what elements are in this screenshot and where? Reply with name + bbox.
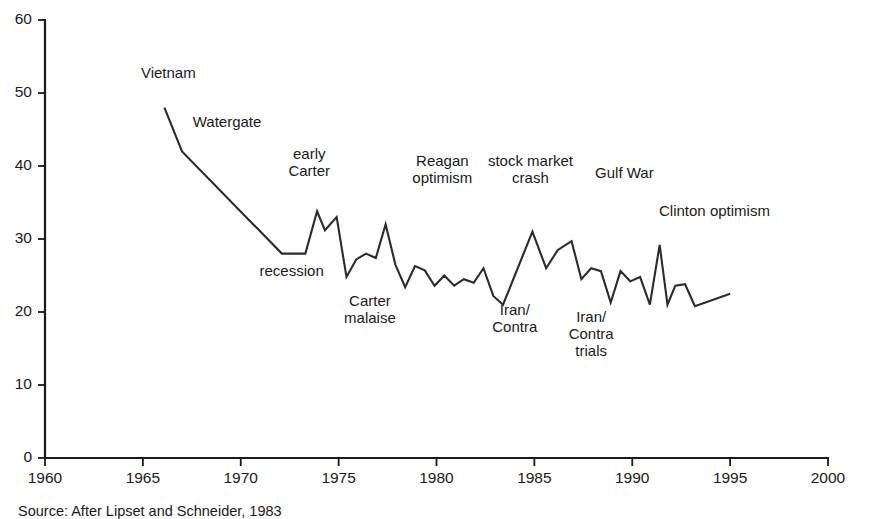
annotation-line: Contra bbox=[569, 325, 615, 342]
annotation-line: Reagan bbox=[416, 152, 469, 169]
annotation-line: Gulf War bbox=[595, 164, 654, 181]
y-tick-label-60: 60 bbox=[15, 10, 33, 27]
x-tick-label-1995: 1995 bbox=[713, 469, 747, 486]
y-tick-label-20: 20 bbox=[15, 302, 33, 319]
chart-figure: 0102030405060196019651970197519801985199… bbox=[0, 0, 878, 519]
annotation-line: crash bbox=[512, 169, 549, 186]
annotation-line: Vietnam bbox=[141, 64, 196, 81]
y-tick-label-30: 30 bbox=[15, 229, 33, 246]
y-tick-label-40: 40 bbox=[15, 156, 33, 173]
trust-in-government-line-chart: 0102030405060196019651970197519801985199… bbox=[0, 0, 878, 519]
annotation-early-carter: earlyCarter bbox=[288, 145, 330, 179]
annotation-watergate: Watergate bbox=[193, 113, 262, 130]
annotation-line: recession bbox=[260, 262, 324, 279]
source-note: Source: After Lipset and Schneider, 1983 bbox=[18, 503, 282, 519]
annotation-reagan-optimism: Reaganoptimism bbox=[412, 152, 472, 186]
annotation-line: Clinton optimism bbox=[659, 202, 770, 219]
annotation-iran-contra: Iran/Contra bbox=[492, 301, 538, 335]
annotation-line: Iran/ bbox=[500, 301, 531, 318]
x-tick-label-1980: 1980 bbox=[419, 469, 454, 486]
annotation-line: Carter bbox=[288, 162, 330, 179]
annotation-stock-market-crash: stock marketcrash bbox=[488, 152, 574, 186]
annotation-line: stock market bbox=[488, 152, 574, 169]
series-line-0 bbox=[164, 108, 730, 307]
annotation-iran-contra-trials: Iran/Contratrials bbox=[569, 308, 615, 359]
x-tick-label-1970: 1970 bbox=[224, 469, 259, 486]
y-tick-label-10: 10 bbox=[15, 375, 33, 392]
annotation-line: optimism bbox=[412, 169, 472, 186]
annotation-line: Carter bbox=[349, 292, 391, 309]
annotation-recession: recession bbox=[260, 262, 324, 279]
annotation-clinton-optimism: Clinton optimism bbox=[659, 202, 770, 219]
chart-axes bbox=[45, 20, 828, 458]
y-tick-label-0: 0 bbox=[23, 448, 32, 465]
annotation-vietnam: Vietnam bbox=[141, 64, 196, 81]
annotation-gulf-war: Gulf War bbox=[595, 164, 654, 181]
annotation-carter-malaise: Cartermalaise bbox=[344, 292, 396, 326]
x-tick-label-1960: 1960 bbox=[28, 469, 63, 486]
x-tick-label-1985: 1985 bbox=[517, 469, 551, 486]
x-tick-label-1965: 1965 bbox=[126, 469, 160, 486]
y-tick-label-50: 50 bbox=[15, 83, 33, 100]
annotation-line: Watergate bbox=[193, 113, 262, 130]
annotation-line: Contra bbox=[492, 318, 538, 335]
x-tick-label-1990: 1990 bbox=[615, 469, 650, 486]
x-tick-label-2000: 2000 bbox=[811, 469, 846, 486]
annotation-line: Iran/ bbox=[576, 308, 607, 325]
annotation-line: trials bbox=[575, 342, 607, 359]
annotation-line: early bbox=[293, 145, 326, 162]
x-tick-label-1975: 1975 bbox=[321, 469, 355, 486]
annotation-line: malaise bbox=[344, 309, 396, 326]
